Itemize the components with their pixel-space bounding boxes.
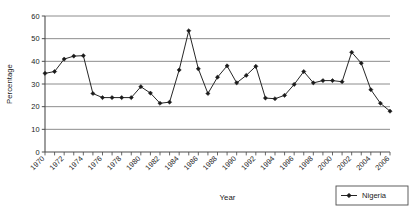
line-chart: 0102030405060 19701972197419761978198019… [0,0,414,218]
chart-svg: 0102030405060 19701972197419761978198019… [0,0,414,218]
legend: Nigeria [336,186,408,205]
y-tick-label: 60 [31,12,39,21]
y-tick-label: 10 [31,125,39,134]
y-tick-label: 30 [31,80,39,89]
y-axis-title: Percentage [5,64,14,104]
y-tick-label: 40 [31,57,39,66]
x-axis-title: Year [220,193,236,202]
y-tick-label: 20 [31,102,39,111]
chart-canvas: 0102030405060 19701972197419761978198019… [0,0,414,218]
legend-label: Nigeria [362,191,387,200]
chart-background [0,0,414,218]
y-tick-label: 50 [31,34,39,43]
